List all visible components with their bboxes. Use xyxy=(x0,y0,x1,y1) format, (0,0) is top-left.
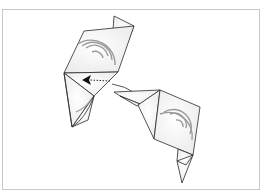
left-origami-piece xyxy=(64,16,134,127)
right-origami-piece xyxy=(114,90,200,183)
origami-diagram xyxy=(0,0,264,196)
